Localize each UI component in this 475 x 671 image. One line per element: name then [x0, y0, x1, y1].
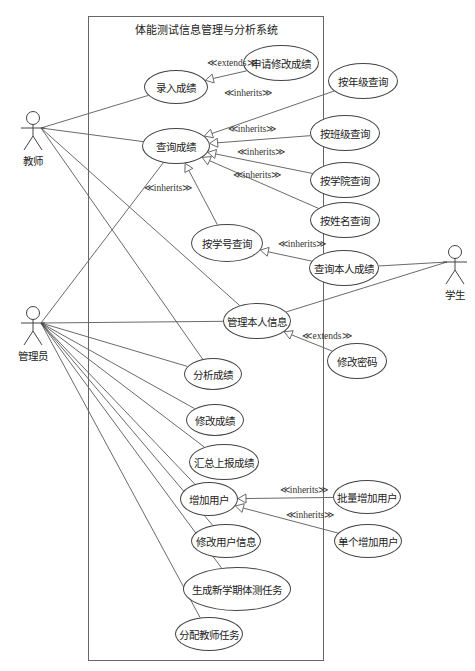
use-case-query-by-student-no[interactable]: 按学号查询: [191, 224, 263, 262]
use-case-assign-teacher-tasks[interactable]: 分配教师任务: [175, 617, 243, 651]
stereotype-label: ≪inherits≫: [286, 509, 335, 520]
use-case-modify-scores[interactable]: 修改成绩: [186, 404, 244, 436]
stereotype-label: ≪inherits≫: [224, 87, 273, 98]
actor-admin-label: 管理员: [18, 348, 48, 363]
use-case-summarize-report[interactable]: 汇总上报成绩: [189, 444, 259, 480]
stereotype-label: ≪inherits≫: [278, 238, 327, 249]
use-case-add-single-user[interactable]: 单个增加用户: [334, 524, 402, 558]
system-title: 体能测试信息管理与分析系统: [135, 21, 278, 37]
use-case-query-by-name[interactable]: 按姓名查询: [310, 202, 380, 238]
stereotype-label: ≪inherits≫: [144, 182, 193, 193]
use-case-analyze-scores[interactable]: 分析成绩: [184, 358, 242, 390]
use-case-change-password[interactable]: 修改密码: [327, 343, 387, 379]
use-case-manage-own-info[interactable]: 管理本人信息: [223, 303, 291, 339]
stereotype-label: ≪inherits≫: [237, 146, 286, 157]
use-case-query-by-college[interactable]: 按学院查询: [310, 162, 380, 198]
use-case-enter-scores[interactable]: 录入成绩: [144, 70, 208, 104]
use-case-generate-semester-tasks[interactable]: 生成新学期体测任务: [183, 567, 291, 611]
use-case-query-scores[interactable]: 查询成绩: [142, 128, 210, 164]
use-case-query-by-class[interactable]: 按班级查询: [310, 115, 380, 151]
stereotype-label: ≪inherits≫: [280, 484, 329, 495]
stereotype-label: ≪extends≫: [207, 57, 256, 68]
system-boundary: [88, 16, 324, 661]
actor-student-label: 学生: [445, 287, 465, 302]
use-case-edit-user-info[interactable]: 修改用户信息: [191, 524, 261, 558]
stereotype-label: ≪inherits≫: [228, 123, 277, 134]
stereotype-label: ≪inherits≫: [233, 169, 282, 180]
use-case-query-by-grade[interactable]: 按年级查询: [328, 63, 398, 99]
actor-admin-icon: [21, 307, 45, 346]
stereotype-label: ≪extends≫: [302, 330, 351, 341]
use-case-add-users[interactable]: 增加用户: [180, 482, 238, 516]
actor-student-icon: [443, 246, 467, 285]
use-case-batch-add-users[interactable]: 批量增加用户: [333, 480, 401, 514]
use-case-query-own-scores[interactable]: 查询本人成绩: [309, 250, 379, 286]
actor-teacher-icon: [21, 112, 45, 151]
actor-teacher-label: 教师: [23, 153, 43, 168]
